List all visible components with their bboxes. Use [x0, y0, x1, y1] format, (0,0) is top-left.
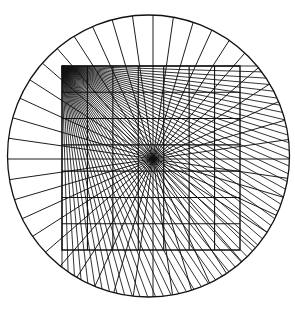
figure-root: [0, 0, 295, 311]
geometric-ray-diagram: [0, 0, 295, 311]
